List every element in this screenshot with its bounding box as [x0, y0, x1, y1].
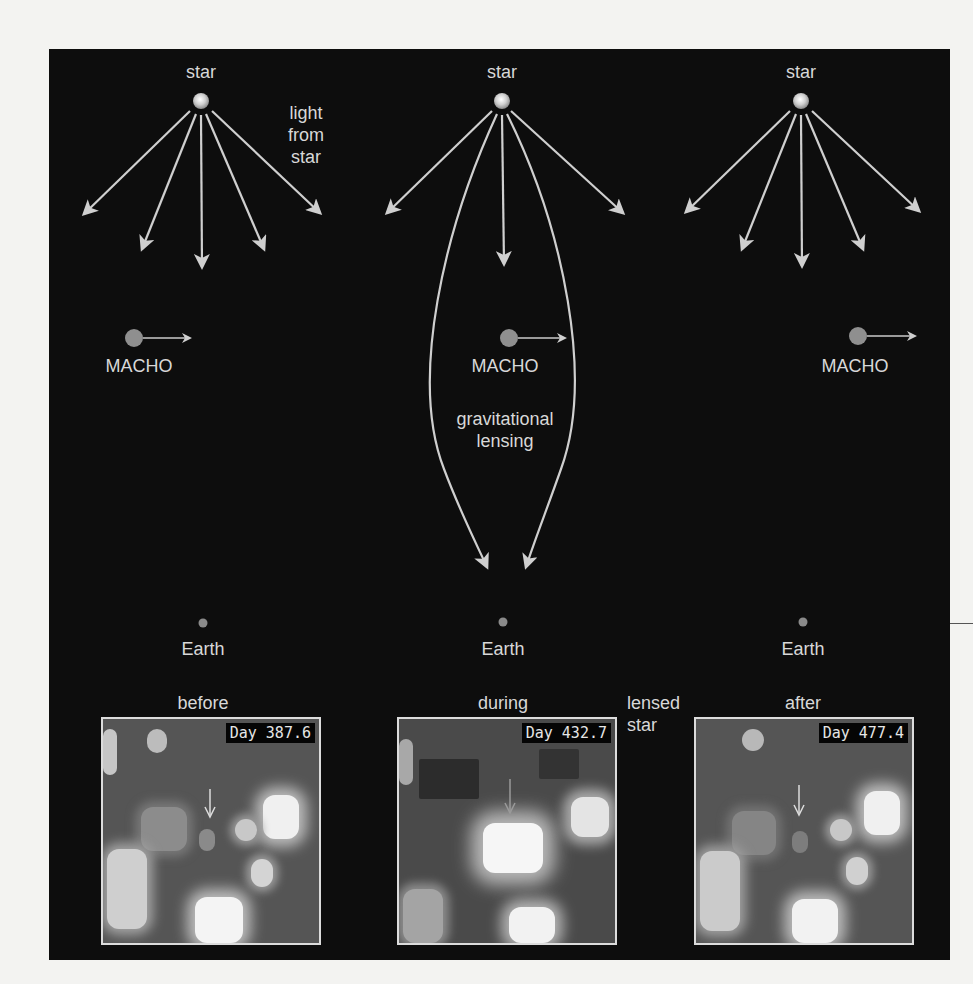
star-icon	[793, 93, 809, 109]
star-label: star	[771, 61, 831, 83]
earth-icon	[499, 618, 508, 627]
gravitational-lensing-label: gravitational lensing	[445, 408, 565, 452]
light-ray	[686, 111, 790, 212]
light-ray	[142, 114, 196, 249]
macho-icon	[849, 327, 867, 345]
day-label: Day 432.7	[522, 723, 611, 743]
star-label: star	[472, 61, 532, 83]
phase-label-before: before	[163, 692, 243, 714]
star-field	[696, 719, 912, 943]
light-ray	[206, 114, 264, 249]
margin-rule	[950, 623, 973, 624]
star-field	[399, 719, 615, 943]
observation-image-during: Day 432.7	[397, 717, 617, 945]
diagram-panel: star light from star MACHO Earth before …	[49, 49, 950, 960]
earth-icon	[799, 618, 808, 627]
light-ray	[812, 111, 919, 211]
target-arrow-icon	[503, 779, 517, 815]
light-ray	[742, 114, 796, 249]
phase-label-after: after	[763, 692, 843, 714]
star-icon	[193, 93, 209, 109]
macho-icon	[500, 329, 518, 347]
day-label: Day 477.4	[819, 723, 908, 743]
macho-icon	[125, 329, 143, 347]
light-ray	[502, 115, 504, 264]
macho-label: MACHO	[810, 355, 900, 377]
day-label: Day 387.6	[226, 723, 315, 743]
earth-label: Earth	[168, 638, 238, 660]
lensed-light-ray	[430, 114, 497, 567]
light-ray	[801, 115, 802, 266]
phase-label-during: during	[463, 692, 543, 714]
observation-image-after: Day 477.4	[694, 717, 914, 945]
observation-image-before: Day 387.6	[101, 717, 321, 945]
star-field	[103, 719, 319, 943]
earth-label: Earth	[468, 638, 538, 660]
target-arrow-icon	[792, 785, 806, 817]
macho-label: MACHO	[94, 355, 184, 377]
lensed-star-label: lensed star	[627, 692, 697, 736]
light-ray	[201, 115, 202, 267]
macho-label: MACHO	[460, 355, 550, 377]
star-icon	[494, 93, 510, 109]
star-label: star	[171, 61, 231, 83]
light-ray	[84, 111, 190, 214]
light-from-star-label: light from star	[271, 102, 341, 168]
earth-label: Earth	[768, 638, 838, 660]
light-ray	[806, 114, 863, 249]
target-arrow-icon	[203, 789, 217, 819]
earth-icon	[199, 619, 208, 628]
